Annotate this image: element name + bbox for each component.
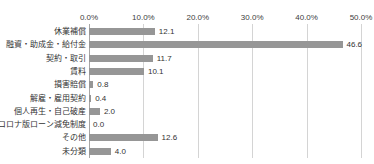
bar-row: 融資・助成金・給付金46.6	[0, 38, 374, 51]
bar-value-label: 10.1	[148, 65, 164, 78]
bar-value-label: 4.0	[115, 145, 126, 158]
bar-row: その他12.6	[0, 131, 374, 144]
bar	[89, 134, 158, 141]
bar-value-label: 12.6	[162, 131, 178, 144]
bar-container: 4.0	[89, 145, 374, 158]
category-label: 個人再生・自己破産	[14, 105, 89, 118]
category-label: 賃料	[70, 65, 89, 78]
bar	[89, 41, 343, 48]
bar-container: 0.8	[89, 78, 374, 91]
bar	[89, 81, 93, 88]
bar-row: 契約・取引11.7	[0, 52, 374, 65]
bar-value-label: 0.0	[93, 118, 104, 131]
x-tick-label: 0.0%	[80, 12, 98, 23]
bar-value-label: 0.4	[95, 92, 106, 105]
bar	[89, 28, 155, 35]
bar-container: 12.1	[89, 25, 374, 38]
category-label: 損害賠償	[54, 78, 89, 91]
category-label: 契約・取引	[46, 52, 89, 65]
bar	[89, 148, 111, 155]
bar-row: 解雇・雇用契約0.4	[0, 92, 374, 105]
bar-container: 0.4	[89, 92, 374, 105]
category-label: コロナ版ローン減免制度	[0, 118, 89, 131]
bar-container: 46.6	[89, 38, 374, 51]
bar-value-label: 2.0	[104, 105, 115, 118]
category-label: 融資・助成金・給付金	[6, 38, 89, 51]
bar-row: 未分類4.0	[0, 145, 374, 158]
x-axis-tick-labels: 0.0%10.0%20.0%30.0%40.0%50.0%	[0, 12, 374, 23]
horizontal-bar-chart: 0.0%10.0%20.0%30.0%40.0%50.0% 休業補償12.1融資…	[0, 0, 374, 164]
bar-value-label: 12.1	[159, 25, 175, 38]
category-label: 未分類	[62, 145, 89, 158]
bar	[89, 108, 100, 115]
category-label: その他	[62, 131, 89, 144]
bar-container: 0.0	[89, 118, 374, 131]
x-tick-label: 20.0%	[186, 12, 209, 23]
x-tick-label: 50.0%	[350, 12, 373, 23]
bar-value-label: 46.6	[347, 38, 363, 51]
bar-row: 賃料10.1	[0, 65, 374, 78]
bar-value-label: 11.7	[157, 52, 172, 65]
bar-rows: 休業補償12.1融資・助成金・給付金46.6契約・取引11.7賃料10.1損害賠…	[0, 24, 374, 158]
bar-row: 個人再生・自己破産2.0	[0, 105, 374, 118]
bar-container: 11.7	[89, 52, 374, 65]
bar-row: 休業補償12.1	[0, 25, 374, 38]
bar-value-label: 0.8	[97, 78, 108, 91]
bar-container: 12.6	[89, 131, 374, 144]
bar-row: 損害賠償0.8	[0, 78, 374, 91]
bar-row: コロナ版ローン減免制度0.0	[0, 118, 374, 131]
x-tick-label: 40.0%	[295, 12, 318, 23]
bar	[89, 55, 153, 62]
cut-off-row-above	[0, 0, 374, 7]
x-tick-label: 10.0%	[132, 12, 155, 23]
bar	[89, 68, 144, 75]
category-label: 休業補償	[54, 25, 89, 38]
bar	[89, 95, 91, 102]
category-label: 解雇・雇用契約	[30, 92, 89, 105]
x-tick-label: 30.0%	[241, 12, 264, 23]
bar-container: 10.1	[89, 65, 374, 78]
bar-container: 2.0	[89, 105, 374, 118]
